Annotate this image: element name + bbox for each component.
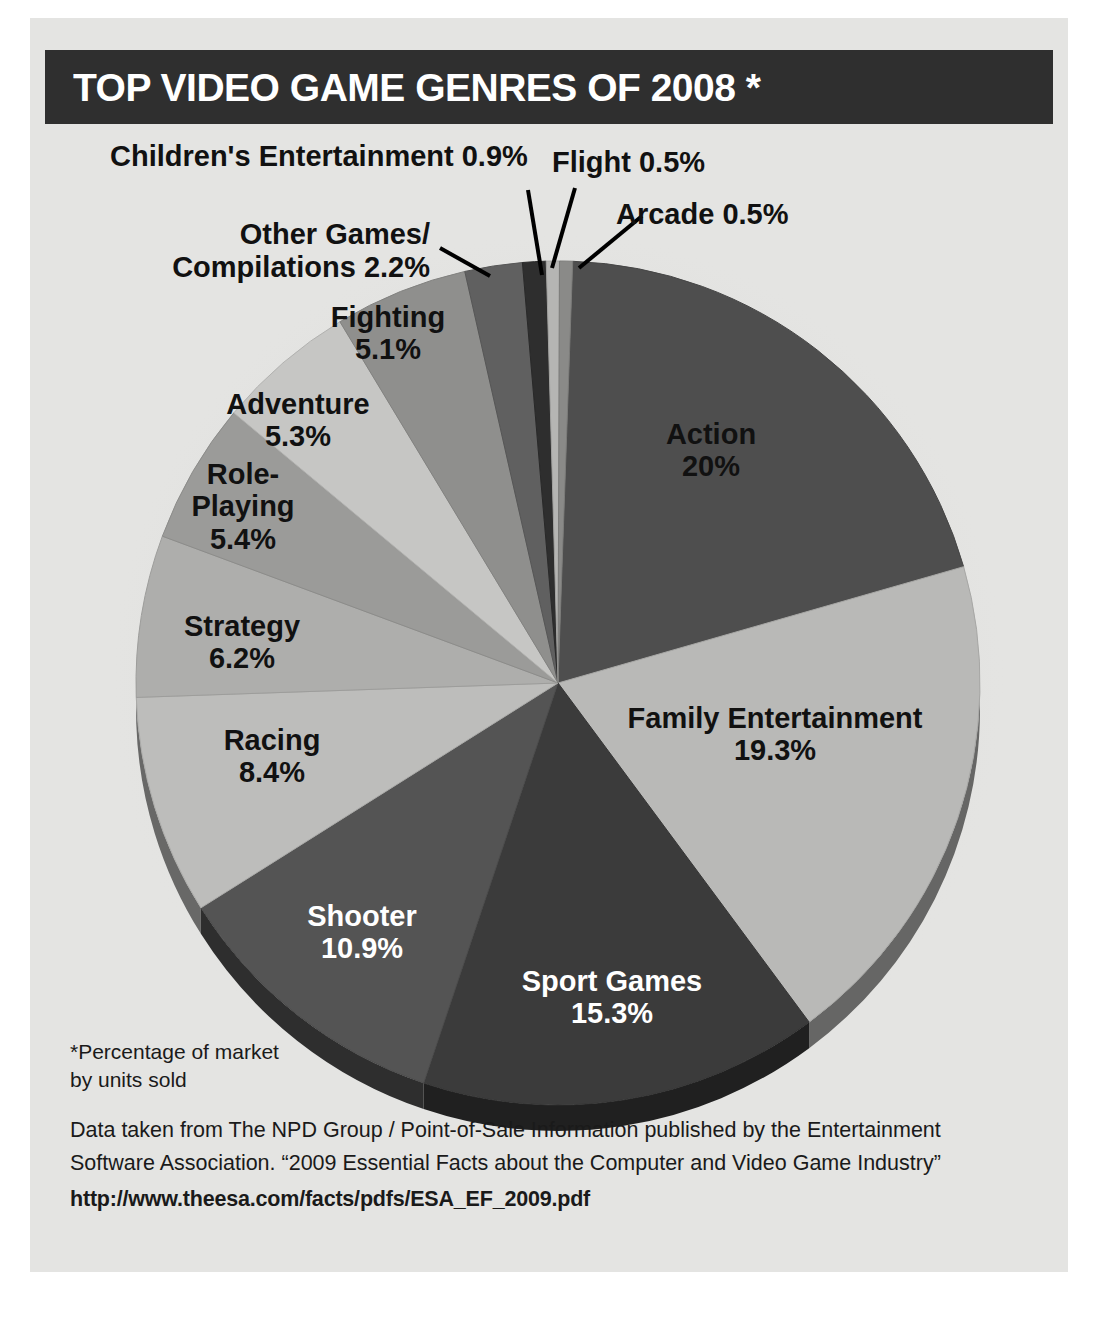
- slice-label-family-entertainment: Family Entertainment 19.3%: [605, 702, 945, 767]
- slice-label-adventure-value: 5.3%: [188, 420, 408, 452]
- slice-label-sport-games: Sport Games 15.3%: [482, 965, 742, 1030]
- slice-label-racing: Racing 8.4%: [182, 724, 362, 789]
- slice-label-arcade: Arcade 0.5%: [616, 198, 789, 230]
- slice-label-fighting-value: 5.1%: [298, 333, 478, 365]
- slice-label-flight-value: 0.5%: [639, 146, 705, 178]
- slice-label-childrens-entertainment-value: 0.9%: [462, 140, 528, 172]
- slice-label-role-playing: Role- Playing 5.4%: [168, 458, 318, 555]
- slice-label-role-playing-name: Role- Playing: [168, 458, 318, 523]
- poster-page: TOP VIDEO GAME GENRES OF 2008 * Action 2: [30, 18, 1068, 1272]
- slice-label-strategy: Strategy 6.2%: [152, 610, 332, 675]
- slice-label-action: Action 20%: [621, 418, 801, 483]
- slice-label-flight-name: Flight: [552, 146, 631, 178]
- slice-label-adventure: Adventure 5.3%: [188, 388, 408, 453]
- footnote: *Percentage of market by units sold: [70, 1038, 279, 1095]
- slice-label-shooter-name: Shooter: [272, 900, 452, 932]
- slice-label-action-value: 20%: [621, 450, 801, 482]
- source-url[interactable]: http://www.theesa.com/facts/pdfs/ESA_EF_…: [70, 1183, 1020, 1216]
- slice-label-flight: Flight 0.5%: [552, 146, 705, 178]
- slice-label-racing-value: 8.4%: [182, 756, 362, 788]
- slice-label-strategy-value: 6.2%: [152, 642, 332, 674]
- slice-label-childrens-entertainment-name: Children's Entertainment: [110, 140, 454, 172]
- slice-label-family-entertainment-name: Family Entertainment: [605, 702, 945, 734]
- source-note: Data taken from The NPD Group / Point-of…: [70, 1114, 1020, 1216]
- slice-label-strategy-name: Strategy: [152, 610, 332, 642]
- slice-label-racing-name: Racing: [182, 724, 362, 756]
- slice-label-sport-games-name: Sport Games: [482, 965, 742, 997]
- slice-label-adventure-name: Adventure: [188, 388, 408, 420]
- slice-label-role-playing-value: 5.4%: [168, 523, 318, 555]
- slice-label-sport-games-value: 15.3%: [482, 997, 742, 1029]
- source-line-1: Data taken from The NPD Group / Point-of…: [70, 1118, 941, 1142]
- slice-label-shooter: Shooter 10.9%: [272, 900, 452, 965]
- slice-label-arcade-name: Arcade: [616, 198, 714, 230]
- slice-label-shooter-value: 10.9%: [272, 932, 452, 964]
- slice-label-family-entertainment-value: 19.3%: [605, 734, 945, 766]
- slice-label-other-games-compilations-text: Other Games/ Compilations 2.2%: [70, 218, 430, 283]
- source-line-2: Software Association. “2009 Essential Fa…: [70, 1151, 941, 1175]
- slice-label-other-games-compilations: Other Games/ Compilations 2.2%: [70, 186, 430, 316]
- slice-label-arcade-value: 0.5%: [722, 198, 788, 230]
- slice-label-action-name: Action: [621, 418, 801, 450]
- slice-label-other-games-value: 2.2%: [364, 251, 430, 283]
- slice-label-childrens-entertainment: Children's Entertainment 0.9%: [110, 140, 528, 172]
